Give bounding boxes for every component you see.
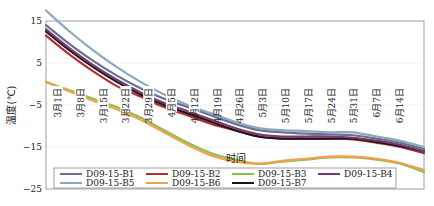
- x-tick-label-group: 3月29日: [143, 86, 154, 123]
- y-tick-label: −15: [23, 142, 42, 152]
- x-tick-label-group: 4月5日: [166, 86, 177, 117]
- x-tick-label-group: 4月19日: [212, 86, 223, 123]
- y-tick-label: 15: [31, 16, 43, 26]
- x-tick-label-group: 4月12日: [189, 86, 200, 123]
- x-tick-label-group: 5月10日: [280, 86, 291, 123]
- legend: D09-15-B1D09-15-B2D09-15-B3D09-15-B4D09-…: [54, 168, 396, 188]
- y-axis-ticks: 155−5−15−25: [23, 16, 42, 194]
- x-tick-label-group: 5月31日: [348, 86, 359, 123]
- legend-label: D09-15-B4: [344, 169, 393, 179]
- x-tick-label-group: 5月3日: [257, 86, 268, 117]
- x-tick-label: 4月5日: [167, 88, 177, 117]
- y-tick-label: 5: [36, 58, 42, 68]
- line-chart: 155−5−15−25 温度(℃) 3月1日3月8日3月15日3月22日3月29…: [0, 0, 434, 206]
- legend-label: D09-15-B6: [172, 178, 221, 188]
- x-tick-label-group: 3月22日: [120, 86, 131, 123]
- x-tick-label: 4月26日: [235, 88, 245, 123]
- x-tick-label: 6月14日: [395, 88, 405, 123]
- x-tick-label: 3月22日: [121, 88, 131, 123]
- x-tick-label-group: 5月17日: [303, 86, 314, 123]
- legend-label: D09-15-B5: [86, 178, 135, 188]
- legend-label: D09-15-B7: [258, 178, 307, 188]
- y-tick-label: −5: [29, 100, 43, 110]
- x-tick-label-group: 3月1日: [52, 86, 63, 117]
- x-tick-label: 5月31日: [349, 88, 359, 123]
- x-tick-label-group: 6月7日: [371, 86, 382, 117]
- x-tick-label-group: 3月15日: [98, 86, 109, 123]
- x-tick-label-group: 5月24日: [326, 86, 337, 123]
- x-tick-label: 3月1日: [53, 88, 63, 117]
- x-tick-label: 5月17日: [304, 88, 314, 123]
- x-tick-label: 4月19日: [213, 88, 223, 123]
- x-tick-label-group: 4月26日: [234, 86, 245, 123]
- x-tick-label: 3月15日: [99, 88, 109, 123]
- y-axis-label: 温度(℃): [5, 85, 17, 124]
- x-tick-label: 6月7日: [372, 88, 382, 117]
- x-tick-label: 4月12日: [190, 88, 200, 123]
- y-tick-label: −25: [23, 184, 42, 194]
- x-axis-tick-labels: 3月1日3月8日3月15日3月22日3月29日4月5日4月12日4月19日4月2…: [52, 86, 405, 123]
- x-tick-label-group: 6月14日: [394, 86, 405, 123]
- x-tick-label: 3月29日: [144, 88, 154, 123]
- x-tick-label-group: 3月8日: [75, 86, 86, 117]
- x-tick-label: 5月10日: [281, 88, 291, 123]
- x-axis-label: 时间: [226, 152, 246, 164]
- x-tick-label: 3月8日: [76, 88, 86, 117]
- x-tick-label: 5月3日: [258, 88, 268, 117]
- x-tick-label: 5月24日: [327, 88, 337, 123]
